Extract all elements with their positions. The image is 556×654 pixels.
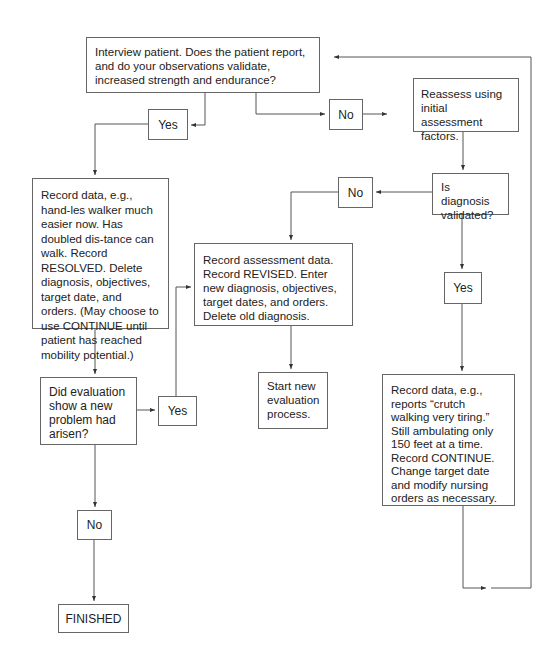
node-interview: Interview patient. Does the patient repo… (86, 37, 320, 93)
node-yes-2: Yes (444, 272, 482, 304)
node-resolved: Record data, e.g., hand-les walker much … (32, 178, 169, 329)
node-text: FINISHED (65, 612, 121, 626)
node-start-new: Start new evaluation process. (258, 372, 328, 429)
node-text: Is diagnosis validated? (441, 181, 493, 221)
node-is-validated: Is diagnosis validated? (432, 173, 509, 215)
node-text: No (87, 518, 102, 532)
node-text: Record data, e.g., reports “crutch walki… (391, 384, 497, 504)
node-text: No (338, 108, 353, 122)
node-text: Start new evaluation process. (267, 380, 319, 420)
node-text: No (348, 186, 363, 200)
node-text: Yes (168, 404, 188, 418)
node-text: Yes (158, 118, 178, 132)
node-no-2: No (338, 177, 373, 208)
node-no-1: No (329, 99, 363, 130)
node-continue: Record data, e.g., reports “crutch walki… (382, 374, 515, 506)
node-revised: Record assessment data. Record REVISED. … (194, 243, 353, 326)
node-reassess: Reassess using initial assessment factor… (413, 78, 519, 132)
node-text: Yes (453, 281, 473, 295)
node-yes-1: Yes (148, 109, 188, 140)
node-yes-3: Yes (158, 396, 197, 426)
node-finished: FINISHED (58, 604, 129, 633)
node-text: Record data, e.g., hand-les walker much … (41, 189, 159, 361)
node-text: Did evaluation show a new problem had ar… (49, 385, 125, 441)
node-new-problem: Did evaluation show a new problem had ar… (40, 377, 137, 445)
node-text: Record assessment data. Record REVISED. … (203, 254, 337, 322)
node-text: Interview patient. Does the patient repo… (95, 46, 305, 86)
node-no-3: No (77, 510, 112, 540)
